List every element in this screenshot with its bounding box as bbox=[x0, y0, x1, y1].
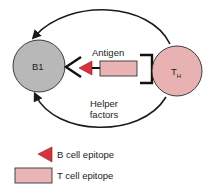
legend-b-epitope-label: B cell epitope bbox=[57, 149, 114, 160]
t-cell-epitope-rect bbox=[100, 61, 137, 76]
legend-t-epitope-label: T cell epitope bbox=[57, 170, 113, 181]
b-cell-label: B1 bbox=[32, 61, 44, 72]
top-arrow-arc bbox=[35, 10, 170, 44]
legend-t-epitope-rect bbox=[15, 168, 52, 183]
legend-b-epitope-triangle bbox=[38, 147, 52, 162]
b-cell-receptor bbox=[66, 57, 81, 77]
helper-line-2: factors bbox=[84, 109, 124, 120]
helper-factors-label: Helper factors bbox=[84, 98, 124, 120]
antigen-label: Antigen bbox=[92, 47, 124, 58]
helper-line-1: Helper bbox=[84, 98, 124, 109]
t-helper-label: TH bbox=[171, 66, 181, 82]
diagram-canvas bbox=[0, 0, 211, 194]
t-cell-receptor-bracket bbox=[140, 55, 152, 83]
t-helper-label-sub: H bbox=[177, 73, 181, 79]
b-cell-epitope-triangle bbox=[79, 61, 92, 75]
